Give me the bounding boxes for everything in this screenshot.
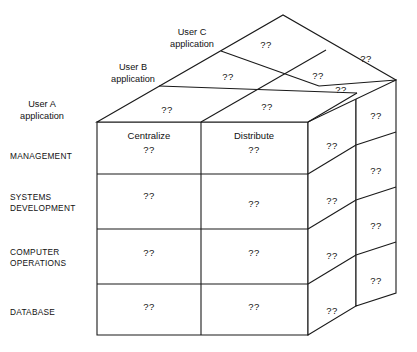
front-cell-r3c2: ?? [248, 247, 259, 258]
side-near-cell-r3: ?? [326, 250, 337, 261]
row-label-database: DATABASE [10, 307, 55, 317]
front-cell-r1c2: ?? [248, 144, 259, 155]
top-layerC-cell-c1: ?? [260, 39, 271, 50]
diagram-canvas: Centralize Distribute ?? ?? ?? ?? ?? ?? … [0, 0, 417, 352]
side-far-cell-r2: ?? [370, 165, 381, 176]
side-near-cell-r4: ?? [326, 305, 337, 316]
top-layerB-side-cell: ?? [360, 53, 371, 64]
top-layerA-side-cell: ?? [335, 84, 346, 95]
front-cell-r2c2: ?? [248, 198, 259, 209]
side-near-cell-r1: ?? [326, 140, 337, 151]
row-label-systems: SYSTEMS [10, 192, 52, 202]
front-cell-r4c2: ?? [248, 301, 259, 312]
side-face-near-column [308, 93, 356, 335]
depth-label-user-c-line1: User C [178, 27, 207, 37]
front-cell-r2c1: ?? [143, 190, 154, 201]
depth-label-user-b-line2: application [111, 74, 155, 84]
front-cell-r3c1: ?? [143, 247, 154, 258]
row-label-management: MANAGEMENT [10, 151, 72, 161]
side-far-cell-r3: ?? [370, 220, 381, 231]
top-layerA-cell-c2: ?? [261, 101, 272, 112]
front-face [97, 122, 308, 335]
side-far-cell-r4: ?? [370, 275, 381, 286]
front-cell-r1c1: ?? [143, 144, 154, 155]
row-labels: MANAGEMENT SYSTEMS DEVELOPMENT COMPUTER … [10, 151, 75, 317]
row-label-operations: OPERATIONS [10, 258, 66, 268]
top-layerB-cell-c2: ?? [312, 70, 323, 81]
top-layerA-cell-c1: ?? [161, 104, 172, 115]
row-label-computer: COMPUTER [10, 247, 59, 257]
depth-label-user-c-line2: application [170, 39, 214, 49]
side-far-cell-r1: ?? [370, 110, 381, 121]
cube-diagram: Centralize Distribute ?? ?? ?? ?? ?? ?? … [0, 0, 417, 352]
front-cell-r4c1: ?? [143, 301, 154, 312]
side-near-cell-r2: ?? [326, 195, 337, 206]
top-layerB-cell-c1: ?? [222, 71, 233, 82]
depth-label-user-b-line1: User B [119, 62, 147, 72]
column-header-centralize: Centralize [128, 130, 171, 141]
depth-label-user-a-line2: application [20, 111, 64, 121]
row-label-development: DEVELOPMENT [10, 203, 75, 213]
depth-label-user-a-line1: User A [28, 99, 56, 109]
column-header-distribute: Distribute [234, 130, 274, 141]
